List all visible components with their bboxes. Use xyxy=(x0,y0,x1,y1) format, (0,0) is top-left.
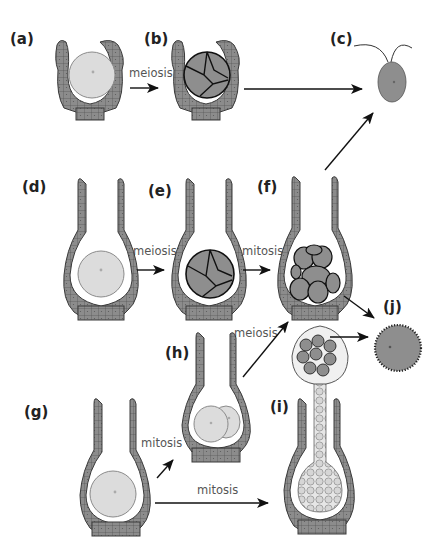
structure-c xyxy=(354,45,412,102)
arrow-h-to-f xyxy=(243,322,288,377)
arrow-f-to-c xyxy=(325,113,373,170)
arrow-g-to-h xyxy=(157,460,173,478)
structure-b xyxy=(172,41,240,120)
structure-h xyxy=(182,333,250,462)
structure-i xyxy=(284,326,354,534)
arrow-f-to-j xyxy=(344,296,374,318)
structure-f xyxy=(278,177,353,320)
structure-g xyxy=(80,399,150,536)
structure-a xyxy=(56,41,124,120)
structure-e xyxy=(172,179,247,320)
structure-j xyxy=(375,325,421,371)
structure-d xyxy=(64,179,139,320)
